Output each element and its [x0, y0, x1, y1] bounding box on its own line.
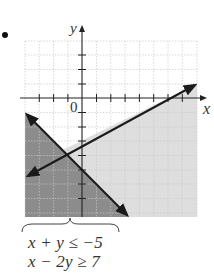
grouping-brace	[22, 218, 119, 232]
x-axis-label: x	[202, 100, 210, 117]
inequality-2: x − 2y ≥ 7	[28, 252, 100, 272]
inequality-1: x + y ≤ −5	[28, 233, 103, 253]
origin-label: 0	[70, 99, 78, 115]
y-axis-arrow-icon	[79, 25, 85, 32]
y-axis-label: y	[68, 20, 77, 36]
